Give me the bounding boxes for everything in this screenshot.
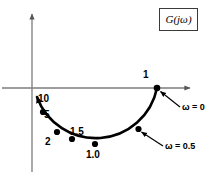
marker-label-omega-2: 2	[45, 137, 51, 147]
marker-label-omega-10: 10	[38, 94, 49, 104]
data-point-omega-2	[54, 129, 60, 135]
annotation-omega-half: ω = 0.5	[165, 142, 195, 151]
leader-line-omega-0	[161, 92, 181, 108]
nyquist-plot-figure: 1 10 5 2 1.5 1.0 ω = 0 ω = 0.5 G(jω)	[0, 0, 206, 177]
legend-box: G(jω)	[159, 8, 198, 31]
marker-label-omega-1p5: 1.5	[70, 127, 84, 137]
leader-line-omega-0p5	[142, 132, 164, 146]
data-point-omega-0	[154, 85, 161, 92]
marker-label-omega-0: 1	[143, 70, 149, 80]
marker-label-omega-5: 5	[44, 110, 50, 120]
marker-label-omega-1p0: 1.0	[86, 150, 100, 160]
legend-label: G(jω)	[165, 14, 191, 25]
data-point-omega-0p5	[135, 126, 141, 132]
data-point-omega-1p0	[92, 141, 98, 147]
annotation-omega-zero: ω = 0	[182, 103, 205, 112]
